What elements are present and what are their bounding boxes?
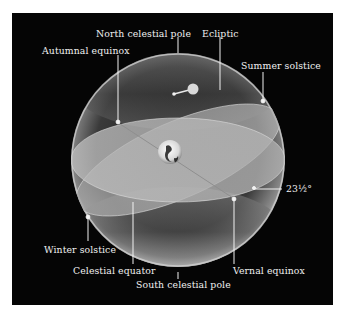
autumnal-equinox-dot <box>116 120 120 124</box>
summer-solstice-dot <box>261 99 265 103</box>
label-autumnal-equinox: Autumnal equinox <box>42 46 130 55</box>
label-celestial-equator: Celestial equator <box>73 266 156 275</box>
earth-icon <box>158 140 182 164</box>
label-north-celestial-pole: North celestial pole <box>96 29 191 38</box>
winter-solstice-dot <box>86 215 90 219</box>
label-winter-solstice: Winter solstice <box>44 245 116 254</box>
tilt-dot <box>253 187 256 190</box>
label-vernal-equinox: Vernal equinox <box>233 266 305 275</box>
vernal-equinox-dot <box>232 197 236 201</box>
label-ecliptic: Ecliptic <box>202 29 239 38</box>
label-summer-solstice: Summer solstice <box>241 61 321 70</box>
label-south-celestial-pole: South celestial pole <box>136 280 231 289</box>
label-tilt-angle: 23½° <box>286 184 312 193</box>
